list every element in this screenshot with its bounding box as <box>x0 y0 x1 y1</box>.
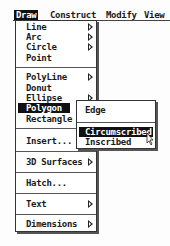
menu-separator <box>16 67 96 68</box>
submenu-arrow-icon <box>88 23 93 31</box>
mouse-pointer-icon <box>146 133 154 145</box>
menu-separator <box>16 151 96 152</box>
menu-draw[interactable]: Draw <box>14 10 38 20</box>
menu-separator <box>77 122 155 123</box>
menu-item-line[interactable]: Line <box>16 22 96 32</box>
polygon-submenu: Edge Circumscribed Inscribed <box>76 100 156 149</box>
menu-modify[interactable]: Modify <box>104 10 139 20</box>
menu-view[interactable]: View <box>142 10 166 20</box>
submenu-item-edge[interactable]: Edge <box>77 105 155 115</box>
menu-separator <box>16 214 96 215</box>
menu-separator <box>16 193 96 194</box>
menu-item-text[interactable]: Text <box>16 199 96 209</box>
menu-item-dimensions[interactable]: Dimensions <box>16 219 96 229</box>
menu-item-donut[interactable]: Donut <box>16 83 96 93</box>
submenu-arrow-icon <box>88 43 93 51</box>
submenu-item-circumscribed[interactable]: Circumscribed <box>79 127 153 137</box>
menu-item-point[interactable]: Point <box>16 53 96 63</box>
menu-item-3d-surfaces[interactable]: 3D Surfaces <box>16 157 96 167</box>
submenu-arrow-icon <box>88 220 93 228</box>
menu-construct[interactable]: Construct <box>48 10 98 20</box>
menu-item-circle[interactable]: Circle <box>16 42 96 52</box>
menu-separator <box>16 172 96 173</box>
submenu-arrow-icon <box>88 33 93 41</box>
submenu-arrow-icon <box>88 200 93 208</box>
submenu-item-inscribed[interactable]: Inscribed <box>77 137 155 147</box>
menu-item-hatch[interactable]: Hatch... <box>16 178 96 188</box>
menu-item-polyline[interactable]: PolyLine <box>16 72 96 82</box>
menu-item-arc[interactable]: Arc <box>16 32 96 42</box>
submenu-arrow-icon <box>88 158 93 166</box>
submenu-arrow-icon <box>88 73 93 81</box>
